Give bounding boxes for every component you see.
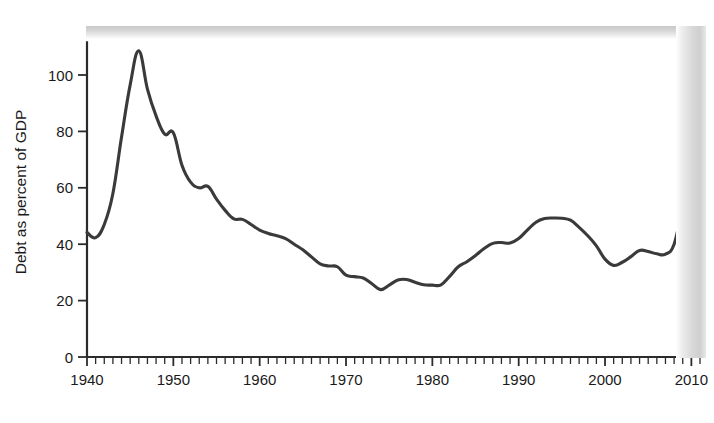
x-tick-label-1960: 1960 [243, 371, 276, 388]
y-tick-label-20: 20 [56, 292, 73, 309]
x-tick-label-1970: 1970 [329, 371, 362, 388]
y-tick-label-100: 100 [48, 67, 73, 84]
y-tick-label-60: 60 [56, 179, 73, 196]
y-tick-label-80: 80 [56, 123, 73, 140]
y-tick-label-0: 0 [65, 349, 73, 366]
x-tick-label-1950: 1950 [157, 371, 190, 388]
x-tick-label-1980: 1980 [416, 371, 449, 388]
debt-series-line [87, 51, 691, 290]
y-tick-label-40: 40 [56, 236, 73, 253]
axis-lines [87, 41, 700, 357]
axis-labels-layer: 0204060801001940195019601970198019902000… [48, 67, 708, 389]
axis-ticks-layer [78, 75, 700, 366]
chart-figure: 0204060801001940195019601970198019902000… [0, 0, 714, 423]
x-tick-label-2000: 2000 [588, 371, 621, 388]
x-tick-label-1990: 1990 [502, 371, 535, 388]
y-axis-title: Debt as percent of GDP [12, 110, 29, 275]
x-tick-label-2010: 2010 [675, 371, 708, 388]
debt-percent-of-gdp-line-chart: 0204060801001940195019601970198019902000… [0, 0, 714, 423]
x-tick-label-1940: 1940 [70, 371, 103, 388]
